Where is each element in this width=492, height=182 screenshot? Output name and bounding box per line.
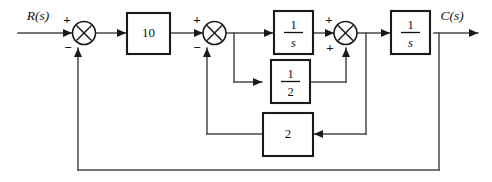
arrow-into-sum3-left xyxy=(325,29,334,37)
sum3-left-sign: + xyxy=(325,12,332,27)
half-numerator: 1 xyxy=(287,67,293,81)
arrow-into-sum2-left xyxy=(194,29,203,37)
sum2-bottom-sign: − xyxy=(193,40,200,55)
arrow-into-int2 xyxy=(381,29,390,37)
control-system-block-diagram: + − + − + + 10 1 s xyxy=(0,0,492,182)
block-diagram-canvas: + − + − + + 10 1 s xyxy=(0,0,492,182)
block-integrator-1: 1 s xyxy=(274,11,313,54)
int1-numerator: 1 xyxy=(290,18,296,32)
int1-denominator: s xyxy=(291,36,296,50)
arrow-output-tip xyxy=(469,29,478,37)
arrow-into-sum3-bottom xyxy=(342,48,350,57)
arrow-into-sum2-bottom xyxy=(203,48,211,57)
sum2-left-sign: + xyxy=(193,12,200,27)
arrow-into-sum1-bottom xyxy=(74,48,82,57)
arrow-into-int1 xyxy=(264,29,273,37)
arrow-into-sum1-left xyxy=(63,29,72,37)
sum1-bottom-sign: − xyxy=(64,40,71,55)
int2-numerator: 1 xyxy=(407,18,413,32)
input-signal-label: R(s) xyxy=(26,8,50,23)
gain10-label: 10 xyxy=(142,25,155,40)
arrow-into-half xyxy=(253,78,262,86)
int2-denominator: s xyxy=(408,36,413,50)
arrow-into-gain10 xyxy=(117,29,126,37)
block-gain-half: 1 2 xyxy=(271,60,310,103)
half-denominator: 2 xyxy=(287,85,293,99)
arrow-into-gain2-right xyxy=(314,130,323,138)
sum3-bottom-sign: + xyxy=(326,40,333,55)
block-gain-2: 2 xyxy=(263,113,313,156)
block-integrator-2: 1 s xyxy=(391,11,430,54)
output-signal-label: C(s) xyxy=(440,8,464,23)
sum1-left-sign: + xyxy=(63,12,70,27)
block-gain-10: 10 xyxy=(127,13,170,54)
gain2-label: 2 xyxy=(285,126,292,141)
